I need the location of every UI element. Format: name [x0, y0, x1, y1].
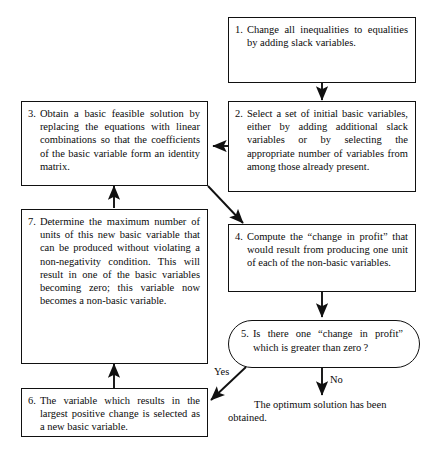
- terminal-statement-line1: The optimum solution has been: [228, 398, 424, 411]
- node-step5-number: 5.: [241, 327, 249, 341]
- node-step2-number: 2.: [235, 107, 243, 120]
- edge-label-no: No: [330, 374, 343, 385]
- node-step5-text: Is there one “change in profit” which is…: [253, 327, 403, 355]
- node-step1-number: 1.: [235, 23, 243, 36]
- node-step6-text: The variable which results in the larges…: [40, 394, 200, 434]
- node-step7-text: Determine the maximum number of units of…: [40, 215, 200, 307]
- node-step6[interactable]: 6. The variable which results in the lar…: [21, 388, 208, 437]
- node-step4-number: 4.: [235, 230, 243, 243]
- node-step3[interactable]: 3. Obtain a basic feasible solution by r…: [21, 101, 208, 186]
- node-step7-number: 7.: [28, 215, 36, 228]
- node-step4-text: Compute the “change in profit” that woul…: [247, 230, 408, 270]
- node-step5[interactable]: 5. Is there one “change in profit” which…: [228, 320, 420, 368]
- node-step6-number: 6.: [28, 394, 36, 407]
- node-step1-text: Change all inequalities to equalities by…: [247, 23, 408, 49]
- node-step2-text: Select a set of initial basic variables,…: [247, 107, 408, 173]
- node-step1[interactable]: 1. Change all inequalities to equalities…: [228, 17, 416, 83]
- terminal-statement-line2: obtained.: [228, 411, 424, 424]
- node-step3-text: Obtain a basic feasible solution by repl…: [40, 107, 200, 173]
- flowchart-canvas: 1. Change all inequalities to equalities…: [0, 0, 429, 454]
- node-step7[interactable]: 7. Determine the maximum number of units…: [21, 209, 208, 364]
- node-step4[interactable]: 4. Compute the “change in profit” that w…: [228, 224, 416, 292]
- node-step2[interactable]: 2. Select a set of initial basic variabl…: [228, 101, 416, 192]
- terminal-statement: The optimum solution has been obtained.: [228, 398, 424, 425]
- node-step3-number: 3.: [28, 107, 36, 120]
- edge-label-yes: Yes: [214, 366, 229, 377]
